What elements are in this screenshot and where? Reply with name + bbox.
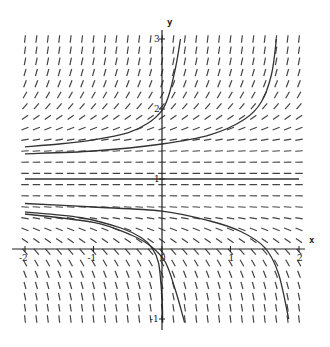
slope-segment [170, 228, 177, 231]
slope-segment [25, 315, 26, 322]
slope-segment [263, 271, 266, 278]
slope-segment [56, 127, 63, 130]
slope-segment [238, 218, 245, 219]
slope-segment [138, 58, 140, 65]
slope-segment [241, 315, 242, 322]
slope-segment [193, 238, 199, 242]
slope-segment [227, 139, 234, 140]
slope-segment [298, 58, 300, 65]
slope-segment [207, 46, 208, 53]
slope-segment [68, 103, 73, 109]
slope-segment [251, 103, 256, 109]
slope-segment [102, 249, 107, 255]
slope-segment [173, 35, 174, 42]
slope-segment [81, 69, 83, 76]
slope-segment [24, 282, 26, 289]
slope-segment [286, 92, 290, 99]
slope-segment [217, 92, 221, 99]
slope-segment [116, 293, 118, 300]
slope-segment [104, 271, 107, 278]
slope-segment [104, 46, 105, 53]
slope-segment [46, 260, 50, 267]
slope-segment [172, 260, 176, 267]
slope-segment [239, 103, 244, 109]
slope-segment [194, 260, 198, 267]
slope-segment [253, 315, 254, 322]
slope-segment [57, 92, 61, 99]
slope-segment [298, 282, 300, 289]
slope-segment [217, 103, 222, 109]
slope-segment [67, 139, 74, 140]
slope-segment [298, 293, 300, 300]
slope-segment [24, 58, 26, 65]
slope-segment [58, 58, 60, 65]
slope-segment [93, 304, 94, 311]
slope-segment [274, 92, 278, 99]
slope-segment [173, 304, 174, 311]
slope-segment [125, 238, 131, 242]
slope-segment [92, 282, 94, 289]
slope-segment [287, 282, 289, 289]
slope-segment [261, 218, 268, 219]
slope-segment [21, 139, 28, 140]
slope-segment [68, 115, 74, 119]
slope-segment [295, 127, 302, 130]
slope-segment [194, 92, 198, 99]
slope-segment [69, 271, 72, 278]
slope-segment [139, 46, 140, 53]
slope-segment [36, 35, 37, 42]
slope-segment [58, 80, 61, 87]
slope-segment [35, 282, 37, 289]
slope-segment [219, 315, 220, 322]
slope-segment [218, 69, 220, 76]
slope-segment [33, 127, 40, 130]
slope-segment [149, 271, 152, 278]
slope-segment [147, 139, 154, 140]
slope-segment [251, 260, 255, 267]
slope-segment [273, 127, 280, 130]
slope-segment [67, 127, 74, 130]
slope-segment [135, 218, 142, 219]
slope-segment [205, 249, 210, 255]
slope-segment [33, 115, 39, 119]
slope-segment [206, 260, 210, 267]
slope-segment [252, 69, 254, 76]
slope-segment [218, 282, 220, 289]
slope-segment [273, 115, 279, 119]
slope-segment [172, 271, 175, 278]
slope-segment [101, 218, 108, 219]
slope-segment [127, 282, 129, 289]
slope-segment [102, 238, 108, 242]
slope-segment [207, 58, 209, 65]
slope-segment [92, 80, 95, 87]
slope-segment [113, 139, 120, 140]
slope-segment [147, 127, 154, 130]
slope-segment [262, 238, 268, 242]
slope-segment [182, 115, 188, 119]
slope-segment [47, 282, 49, 289]
slope-segment [34, 249, 39, 255]
slope-segment [93, 315, 94, 322]
slope-segment [285, 249, 290, 255]
slope-segment [44, 218, 51, 219]
slope-segment [102, 115, 108, 119]
slope-segment [82, 46, 83, 53]
slope-segment [216, 238, 222, 242]
slope-segment [136, 228, 143, 231]
slope-segment [126, 80, 129, 87]
slope-segment [127, 46, 128, 53]
slope-segment [24, 271, 27, 278]
slope-segment [114, 249, 119, 255]
slope-segment [297, 92, 301, 99]
slope-segment [287, 35, 288, 42]
slope-segment [238, 127, 245, 130]
slope-segment [44, 127, 51, 130]
slope-segment [81, 58, 83, 65]
slope-segment [45, 249, 50, 255]
slope-segment [46, 92, 50, 99]
slope-segment [284, 218, 291, 219]
slope-segment [264, 304, 265, 311]
slope-segment [90, 127, 97, 130]
slope-segment [284, 139, 291, 140]
slope-segment [274, 103, 279, 109]
